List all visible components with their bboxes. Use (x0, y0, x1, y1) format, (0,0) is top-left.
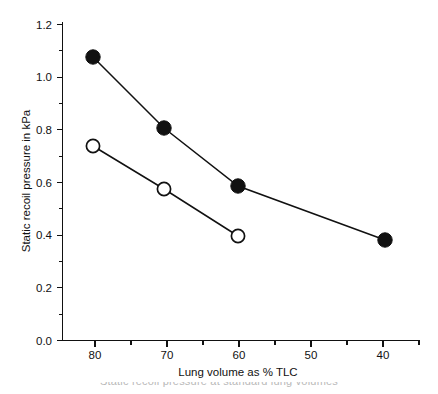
x-axis-title: Lung volume as % TLC (178, 366, 297, 378)
series-filled-circles (86, 50, 392, 247)
series-filled-line (93, 57, 385, 240)
y-tick-label: 0.0 (36, 335, 52, 347)
data-point-marker (231, 179, 245, 193)
y-tick-label: 0.4 (36, 229, 53, 241)
data-point-marker (86, 50, 100, 64)
data-point-marker (231, 229, 244, 242)
x-tick-label: 70 (161, 349, 174, 361)
x-tick-label: 80 (89, 349, 102, 361)
series-open-circles (86, 139, 244, 242)
x-tick-label: 60 (233, 349, 246, 361)
y-axis-title: Static recoil pressure in kPa (20, 109, 32, 252)
y-axis-tick-labels: 0.0 0.2 0.4 0.6 0.8 1.0 1.2 (36, 19, 53, 347)
figure-container: 0.0 0.2 0.4 0.6 0.8 1.0 1.2 80 70 (0, 0, 438, 394)
static-recoil-pressure-chart: 0.0 0.2 0.4 0.6 0.8 1.0 1.2 80 70 (0, 0, 438, 394)
x-tick-label: 40 (377, 349, 390, 361)
x-tick-label: 50 (305, 349, 318, 361)
data-point-marker (157, 121, 171, 135)
x-axis-major-ticks (95, 341, 383, 347)
cut-off-caption-text: Static recoil pressure at standard lung … (0, 382, 438, 394)
y-tick-label: 0.8 (36, 124, 52, 136)
y-axis-major-ticks (57, 25, 63, 341)
data-point-marker (157, 182, 170, 195)
y-tick-label: 0.2 (36, 282, 52, 294)
x-axis-tick-labels: 80 70 60 50 40 (89, 349, 390, 361)
data-point-marker (378, 233, 392, 247)
y-tick-label: 1.0 (36, 71, 52, 83)
caption-fragment: Static recoil pressure at standard lung … (100, 382, 338, 387)
data-point-marker (86, 139, 99, 152)
y-tick-label: 0.6 (36, 177, 52, 189)
y-tick-label: 1.2 (36, 19, 52, 31)
